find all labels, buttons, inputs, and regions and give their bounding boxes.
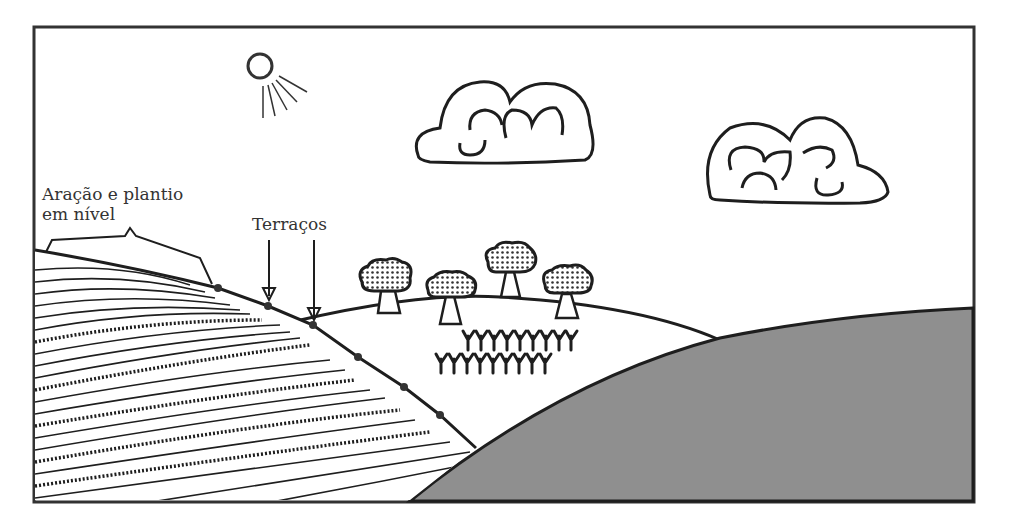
terraces-label: Terraços xyxy=(252,214,327,234)
contour-label-line1: Aração e plantio xyxy=(42,184,183,204)
soil-conservation-diagram xyxy=(0,0,1009,524)
contour-label-line2: em nível xyxy=(42,204,183,224)
contour-plowing-label: Aração e plantio em nível xyxy=(42,184,183,224)
